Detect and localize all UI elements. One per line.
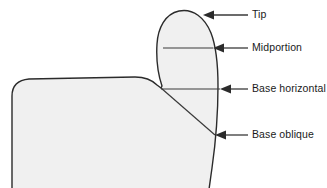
tip-arrowhead-icon: [203, 11, 214, 20]
tip-label: Tip: [252, 8, 267, 20]
figure-outline-group: [12, 10, 218, 188]
diagram-canvas: Tip Midportion Base horizontal Base obli…: [0, 0, 327, 188]
nasal-profile-figure: Tip Midportion Base horizontal Base obli…: [0, 0, 327, 188]
callout-midportion: Midportion: [213, 41, 302, 53]
midportion-label: Midportion: [252, 41, 302, 53]
callout-base-horizontal: Base horizontal: [220, 82, 326, 94]
base-horizontal-arrowhead-icon: [220, 85, 231, 94]
body-shape-path: [12, 10, 218, 188]
callout-tip: Tip: [203, 8, 267, 20]
base-oblique-label: Base oblique: [252, 128, 314, 140]
callout-base-oblique: Base oblique: [215, 128, 314, 140]
base-horizontal-label: Base horizontal: [252, 82, 326, 94]
